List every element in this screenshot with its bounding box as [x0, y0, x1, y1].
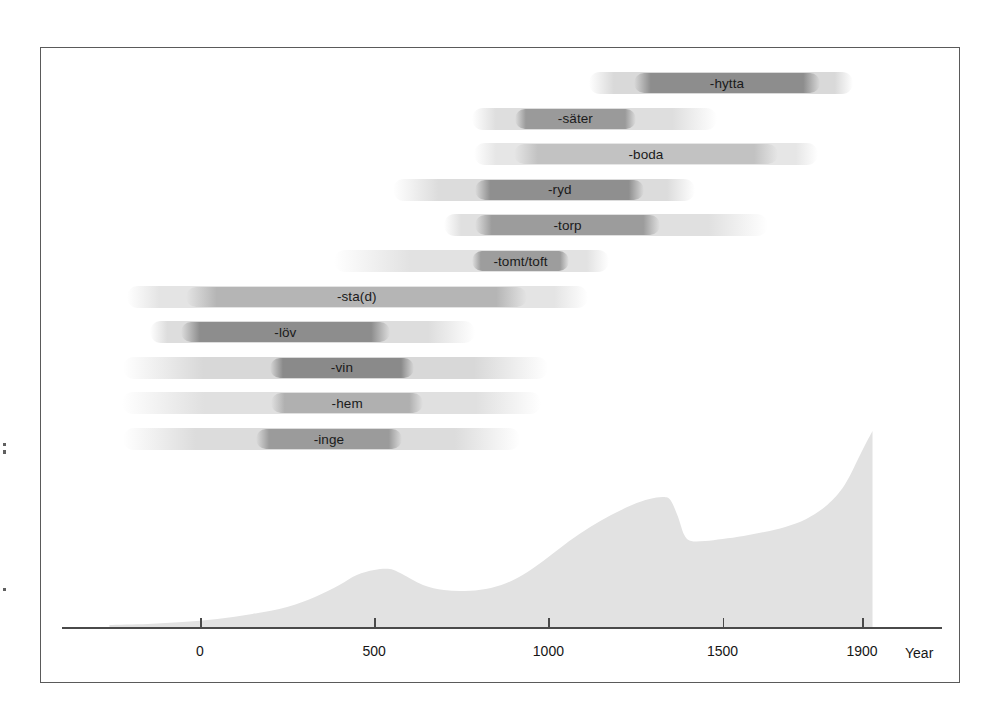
chart-frame	[40, 47, 960, 683]
page-edge-artifact	[3, 450, 6, 454]
page-edge-artifact	[3, 443, 6, 446]
page-edge-artifact	[3, 588, 6, 591]
figure-root: -hytta-säter-boda-ryd-torp-tomt/toft-sta…	[0, 0, 998, 727]
